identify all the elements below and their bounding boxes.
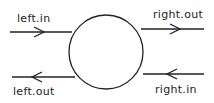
label-left-in: left.in	[17, 13, 50, 24]
label-right-in: right.in	[155, 84, 197, 95]
right-out-arrow	[141, 24, 204, 34]
label-right-out: right.out	[153, 9, 203, 20]
right-in-arrow	[143, 69, 204, 79]
label-left-out: left.out	[13, 86, 55, 97]
left-in-arrow	[10, 27, 72, 37]
left-out-arrow	[12, 72, 75, 82]
node-circle	[69, 15, 143, 89]
